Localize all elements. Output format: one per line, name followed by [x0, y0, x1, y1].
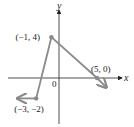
point-label-1: (−3, −2) [14, 104, 44, 114]
point-label-2: (−1, 4) [15, 32, 40, 42]
x-axis-label: x [123, 72, 129, 83]
point-label-3: (5, 0) [91, 64, 111, 74]
data-point-2 [49, 35, 53, 39]
series-piecewise: (−3, −2)(−1, 4)(5, 0) [14, 32, 110, 114]
line-segment-1 [36, 37, 51, 98]
data-point-3 [95, 76, 99, 80]
origin-label: 0 [52, 79, 57, 89]
data-point-1 [34, 96, 38, 100]
chart: x y 0 (−3, −2)(−1, 4)(5, 0) [0, 0, 134, 127]
y-axis-label: y [56, 0, 62, 11]
